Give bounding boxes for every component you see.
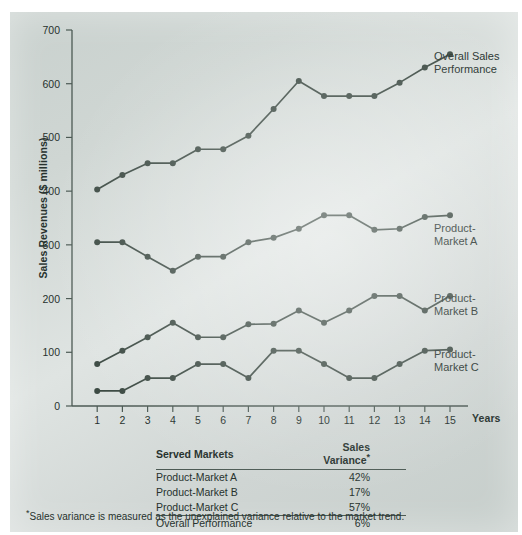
data-point-marker	[170, 160, 176, 166]
data-point-marker	[119, 172, 125, 178]
y-axis-title: Sales Revenues ($ millions)	[37, 128, 49, 288]
x-tick-label: 6	[220, 414, 226, 426]
data-point-marker	[195, 146, 201, 152]
x-tick-label: 8	[271, 414, 277, 426]
series-line	[97, 54, 450, 189]
data-point-marker	[397, 361, 403, 367]
data-point-marker	[170, 375, 176, 381]
data-point-marker	[145, 375, 151, 381]
y-tick-label: 0	[54, 400, 60, 412]
table-header-sales-variance: Sales Variance*	[314, 440, 407, 470]
data-point-marker	[371, 375, 377, 381]
data-point-marker	[271, 348, 277, 354]
y-tick-label: 600	[42, 78, 60, 90]
data-point-marker	[145, 254, 151, 260]
table-head: Served Markets Sales Variance*	[156, 440, 406, 470]
series-line	[97, 350, 450, 391]
data-point-marker	[220, 254, 226, 260]
x-tick-label: 4	[170, 414, 176, 426]
data-point-marker	[245, 239, 251, 245]
footnote-text: Sales variance is measured as the unexpl…	[30, 511, 405, 522]
data-point-marker	[397, 293, 403, 299]
x-axis-ticks: 123456789101112131415	[94, 406, 456, 426]
data-point-marker	[321, 212, 327, 218]
x-tick-label: 13	[394, 414, 406, 426]
data-point-marker	[119, 239, 125, 245]
data-point-marker	[195, 254, 201, 260]
data-point-marker	[296, 307, 302, 313]
data-point-marker	[371, 93, 377, 99]
data-point-marker	[94, 187, 100, 193]
footnote: *Sales variance is measured as the unexp…	[26, 510, 506, 523]
axis-lines	[72, 30, 468, 406]
x-tick-label: 2	[119, 414, 125, 426]
series-label-overall-sales-performance: Overall Sales Performance	[434, 50, 499, 76]
series-overall-sales-performance	[94, 51, 453, 192]
series-product-market-a	[94, 212, 453, 273]
x-tick-label: 11	[344, 414, 355, 426]
x-axis-title: Years	[472, 412, 501, 424]
series-label-product-market-a: Product- Market A	[434, 222, 477, 248]
data-point-marker	[296, 226, 302, 232]
data-point-marker	[346, 375, 352, 381]
table-row: Product-Market B17%	[156, 485, 406, 500]
chart-panel: 0100200300400500600700 12345678910111213…	[10, 12, 518, 532]
data-point-marker	[119, 388, 125, 394]
series-line	[97, 296, 450, 364]
data-point-marker	[271, 106, 277, 112]
data-point-marker	[422, 307, 428, 313]
data-point-marker	[94, 239, 100, 245]
x-tick-label: 3	[145, 414, 151, 426]
data-point-marker	[271, 235, 277, 241]
x-tick-label: 1	[94, 414, 100, 426]
data-point-marker	[220, 334, 226, 340]
data-point-marker	[145, 160, 151, 166]
data-point-marker	[447, 212, 453, 218]
data-point-marker	[220, 361, 226, 367]
series-line	[97, 215, 450, 270]
data-point-marker	[195, 361, 201, 367]
data-point-marker	[245, 133, 251, 139]
data-point-marker	[119, 348, 125, 354]
data-point-marker	[371, 293, 377, 299]
data-point-marker	[170, 268, 176, 274]
x-tick-label: 12	[369, 414, 381, 426]
x-tick-label: 14	[419, 414, 431, 426]
series-label-product-market-c: Product- Market C	[434, 348, 479, 374]
data-point-marker	[346, 93, 352, 99]
series-product-market-b	[94, 293, 453, 367]
data-point-marker	[145, 334, 151, 340]
data-point-marker	[422, 65, 428, 71]
x-tick-label: 5	[195, 414, 201, 426]
table-header-served-markets: Served Markets	[156, 440, 314, 470]
table-cell-variance: 17%	[314, 485, 407, 500]
table-cell-market: Product-Market B	[156, 485, 314, 500]
x-tick-label: 15	[444, 414, 456, 426]
data-point-marker	[321, 320, 327, 326]
data-point-marker	[94, 388, 100, 394]
data-point-marker	[170, 320, 176, 326]
y-tick-label: 100	[42, 346, 60, 358]
table-header-row: Served Markets Sales Variance*	[156, 440, 406, 470]
table-cell-market: Product-Market A	[156, 470, 314, 486]
data-point-marker	[220, 146, 226, 152]
data-point-marker	[94, 361, 100, 367]
data-point-marker	[346, 212, 352, 218]
table-header-footnote-marker: *	[366, 452, 370, 462]
data-point-marker	[296, 348, 302, 354]
data-point-marker	[346, 307, 352, 313]
x-tick-label: 7	[245, 414, 251, 426]
data-point-marker	[296, 78, 302, 84]
data-point-marker	[397, 80, 403, 86]
x-tick-label: 10	[318, 414, 330, 426]
data-series-layer	[94, 51, 453, 394]
figure-container: 0100200300400500600700 12345678910111213…	[0, 0, 522, 535]
series-product-market-c	[94, 347, 453, 394]
x-tick-label: 9	[296, 414, 302, 426]
table-row: Product-Market A42%	[156, 470, 406, 486]
data-point-marker	[371, 227, 377, 233]
y-tick-label: 200	[42, 293, 60, 305]
data-point-marker	[245, 375, 251, 381]
data-point-marker	[321, 361, 327, 367]
series-label-product-market-b: Product- Market B	[434, 292, 478, 318]
